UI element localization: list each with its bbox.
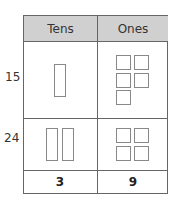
row-label-15: 15 (5, 70, 20, 84)
ones-block (134, 73, 149, 88)
ones-block (134, 128, 149, 143)
ones-block (116, 73, 131, 88)
header-tens: Tens (24, 16, 97, 42)
header-ones: Ones (98, 16, 168, 42)
total-tens: 3 (24, 171, 96, 194)
ones-block (116, 146, 131, 161)
ones-block (116, 55, 131, 70)
tens-rod (46, 128, 58, 161)
ones-block (116, 90, 131, 105)
ones-block (116, 128, 131, 143)
tens-rod (54, 64, 66, 97)
row-label-24: 24 (4, 131, 19, 145)
total-ones: 9 (98, 171, 168, 194)
place-value-table: Tens Ones 3 9 (23, 15, 168, 194)
column-divider (97, 16, 98, 193)
ones-block (134, 55, 149, 70)
ones-block (134, 146, 149, 161)
tens-rod (62, 128, 74, 161)
row-divider-1 (24, 118, 167, 119)
